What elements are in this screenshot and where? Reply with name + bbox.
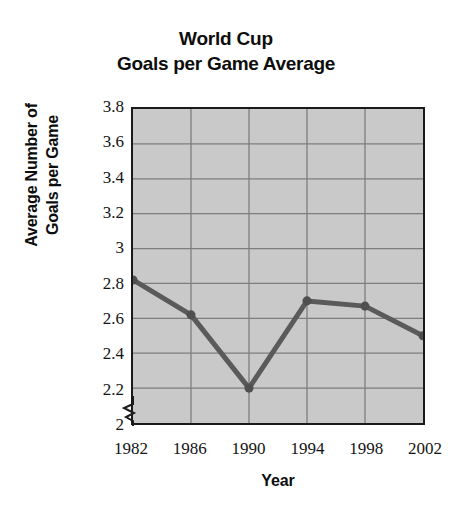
- y-tick-label: 3.4: [62, 169, 124, 186]
- y-axis-title-line-2: Goals per Game: [42, 45, 63, 305]
- data-point-marker: [186, 310, 195, 319]
- x-tick-label: 1998: [335, 440, 397, 457]
- y-axis-title-line-1: Average Number of: [21, 45, 42, 305]
- y-axis-break-icon: [120, 396, 138, 426]
- y-tick-label: 2.4: [62, 345, 124, 362]
- chart-title: World Cup Goals per Game Average: [0, 26, 452, 76]
- data-point-marker: [302, 296, 311, 305]
- series-line: [133, 280, 423, 388]
- y-tick-label: 2.8: [62, 275, 124, 292]
- data-series-line: [133, 280, 423, 388]
- y-axis-title: Average Number of Goals per Game: [21, 45, 67, 305]
- x-tick-label: 1990: [218, 440, 280, 457]
- chart-title-line-2: Goals per Game Average: [0, 51, 452, 76]
- y-tick-label: 2.2: [62, 381, 124, 398]
- y-tick-label: 3: [62, 239, 124, 256]
- gridlines: [133, 109, 423, 423]
- plot-area: [131, 107, 425, 425]
- chart-title-line-1: World Cup: [0, 26, 452, 51]
- x-tick-label: 1994: [276, 440, 338, 457]
- y-tick-label: 3.2: [62, 204, 124, 221]
- x-axis-title: Year: [131, 472, 425, 490]
- data-point-markers: [133, 275, 423, 392]
- y-tick-label: 2: [62, 416, 124, 433]
- plot-canvas: [133, 109, 423, 423]
- y-tick-label: 3.6: [62, 133, 124, 150]
- x-tick-label: 1982: [100, 440, 162, 457]
- y-tick-label: 2.6: [62, 310, 124, 327]
- data-point-marker: [244, 384, 253, 393]
- x-tick-label: 2002: [394, 440, 452, 457]
- x-tick-label: 1986: [159, 440, 221, 457]
- y-tick-label: 3.8: [62, 98, 124, 115]
- data-point-marker: [360, 302, 369, 311]
